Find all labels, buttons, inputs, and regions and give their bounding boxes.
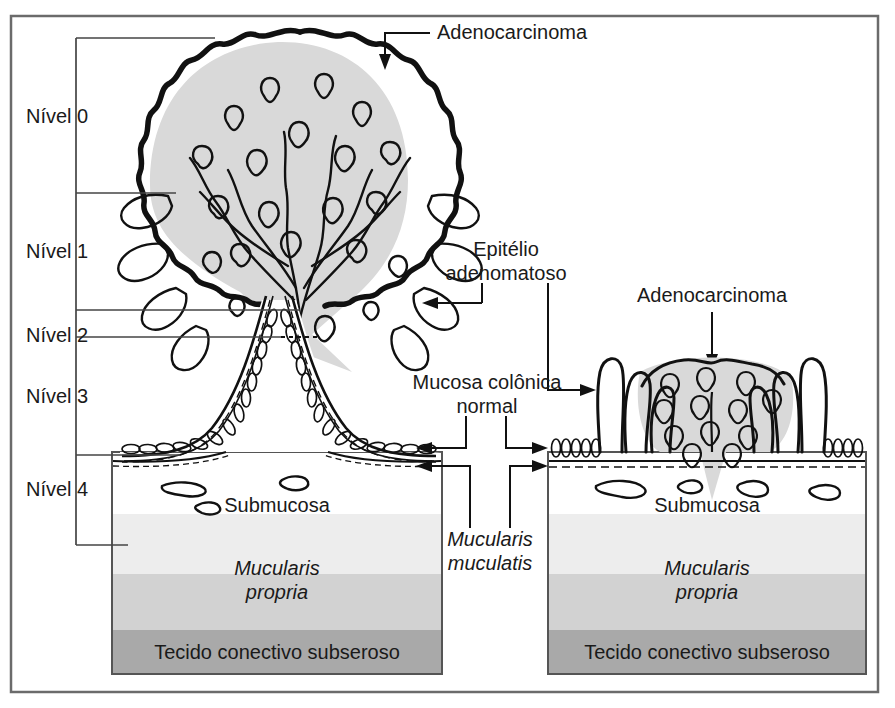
annotation-mucularis-line2: muculatis [448, 552, 532, 575]
right-label-subserosa: Tecido conectivo subseroso [584, 641, 830, 664]
right-label-submucosa: Submucosa [654, 494, 760, 517]
annotation-epitelio-line2: adenomatoso [445, 262, 566, 285]
annotation-mucosa-line2: normal [456, 395, 517, 418]
left-label-muscularis-line2: propria [246, 581, 308, 604]
right-label-muscularis-line1: Mucularis [664, 557, 750, 580]
level-label-2: Nível 2 [26, 324, 88, 347]
figure-canvas: Nível 0 Nível 1 Nível 2 Nível 3 Nível 4 … [0, 0, 895, 708]
annotation-adenocarcinoma-left: Adenocarcinoma [437, 21, 587, 44]
annotation-adenocarcinoma-right: Adenocarcinoma [637, 284, 787, 307]
level-label-1: Nível 1 [26, 240, 88, 263]
annotation-epitelio-line1: Epitélio [473, 238, 539, 261]
annotation-mucularis-line1: Mucularis [447, 528, 533, 551]
annotation-mucosa-line1: Mucosa colônica [413, 371, 562, 394]
right-label-muscularis-line2: propria [676, 581, 738, 604]
level-label-0: Nível 0 [26, 105, 88, 128]
haggitt-diagram-svg [0, 0, 895, 708]
left-label-submucosa: Submucosa [224, 494, 330, 517]
left-label-subserosa: Tecido conectivo subseroso [154, 641, 400, 664]
level-label-3: Nível 3 [26, 385, 88, 408]
left-label-muscularis-line1: Mucularis [234, 557, 320, 580]
level-label-4: Nível 4 [26, 478, 88, 501]
